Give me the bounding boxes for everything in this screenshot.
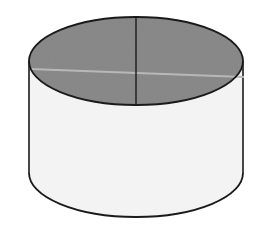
cylinder-figure bbox=[0, 0, 257, 228]
cylinder-diagram bbox=[0, 0, 257, 228]
